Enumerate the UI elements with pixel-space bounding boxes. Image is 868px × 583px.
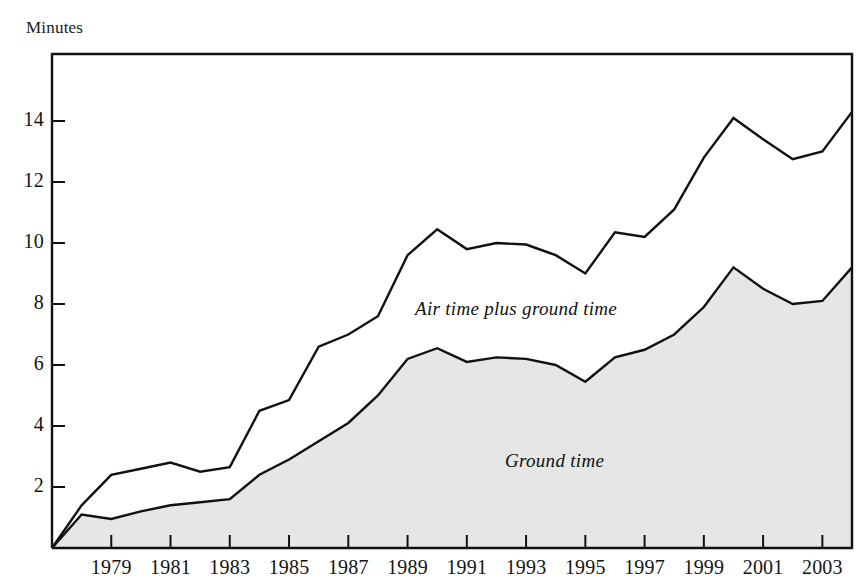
x-axis-tick-label: 1999	[673, 556, 735, 579]
y-axis-tick-label: 8	[10, 291, 44, 314]
x-axis-tick-label: 1985	[258, 556, 320, 579]
x-axis-tick-label: 1987	[317, 556, 379, 579]
y-axis-tick-label: 14	[10, 108, 44, 131]
x-axis-tick-label: 1989	[377, 556, 439, 579]
x-axis-tick-label: 1997	[614, 556, 676, 579]
y-axis-tick-label: 12	[10, 169, 44, 192]
x-axis-tick-label: 1991	[436, 556, 498, 579]
x-axis-tick-label: 1983	[199, 556, 261, 579]
y-axis-tick-label: 4	[10, 413, 44, 436]
series-label-air-plus-ground: Air time plus ground time	[415, 298, 617, 320]
y-axis-tick-label: 2	[10, 474, 44, 497]
figure-root: Minutes 2468101214 197919811983198519871…	[0, 0, 868, 583]
series-label-ground-time: Ground time	[505, 450, 604, 472]
x-axis-tick-label: 1993	[495, 556, 557, 579]
x-axis-tick-label: 1981	[140, 556, 202, 579]
x-axis-tick-label: 2003	[791, 556, 853, 579]
chart-plot-area	[0, 0, 868, 583]
x-axis-tick-label: 1995	[554, 556, 616, 579]
y-axis-tick-label: 6	[10, 352, 44, 375]
y-axis-tick-label: 10	[10, 230, 44, 253]
x-axis-tick-label: 2001	[732, 556, 794, 579]
x-axis-tick-label: 1979	[80, 556, 142, 579]
